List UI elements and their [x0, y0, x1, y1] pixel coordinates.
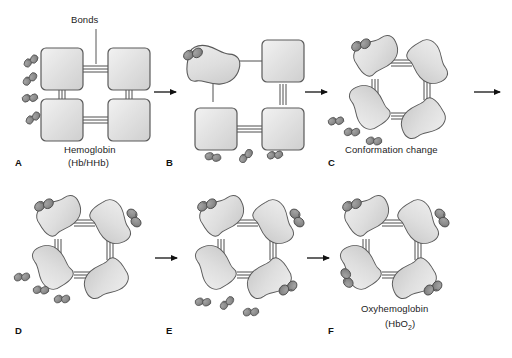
subunit-kidney: [87, 195, 138, 250]
panel-letter-c: C: [328, 157, 335, 168]
subunit-kidney: [349, 29, 404, 80]
free-oxygen-molecule: [343, 124, 361, 140]
free-oxygen-molecule: [194, 294, 212, 309]
subunit-kidney: [404, 35, 455, 90]
panel-letter-b: B: [166, 157, 173, 168]
panel-letter-e: E: [166, 325, 172, 336]
free-oxygen-molecule: [53, 291, 71, 307]
panel-d: [13, 189, 146, 307]
figure-canvas: [0, 0, 512, 358]
subunit-kidney: [195, 189, 250, 240]
subunit-kidney: [26, 239, 77, 294]
panel-a-caption-line2: (Hb/HHb): [68, 157, 109, 168]
hemoglobin-oxygen-loading-figure: Bonds Hemoglobin (Hb/HHb) Conformation c…: [0, 0, 512, 358]
subunit-kidney: [250, 195, 301, 250]
bonds-label: Bonds: [71, 14, 98, 25]
subunit-square: [108, 48, 150, 90]
panel-e: [189, 189, 309, 320]
free-oxygen-molecule: [21, 90, 39, 106]
free-oxygen-molecule: [242, 304, 260, 320]
panel-f: [334, 189, 454, 306]
subunit-kidney: [189, 239, 240, 294]
subunit-square: [262, 108, 304, 150]
subunit-square: [108, 99, 150, 141]
panel-f-caption-prefix: (HbO: [385, 318, 408, 329]
subunit-square: [41, 99, 83, 141]
panel-f-caption-line2: (HbO2): [385, 318, 415, 331]
subunit-square: [41, 48, 83, 90]
panel-letter-f: F: [328, 325, 334, 336]
panel-letter-d: D: [15, 325, 22, 336]
subunit-kidney: [395, 195, 446, 250]
free-oxygen-molecule: [219, 294, 235, 312]
panel-letter-a: A: [15, 157, 22, 168]
free-oxygen-molecule: [204, 150, 221, 164]
subunit-kidney: [340, 189, 395, 240]
subunit-kidney: [241, 255, 296, 306]
panel-c: [327, 29, 454, 149]
free-oxygen-molecule: [13, 269, 31, 285]
subunit-kidney: [343, 79, 394, 134]
free-oxygen-molecule: [23, 52, 40, 70]
subunit-square: [195, 108, 237, 150]
subunit-square: [262, 40, 304, 82]
panel-f-caption-line1: Oxyhemoglobin: [361, 303, 428, 314]
free-oxygen-group-a: [21, 52, 41, 127]
free-oxygen-molecule: [238, 147, 253, 165]
free-oxygen-molecule: [22, 70, 38, 88]
free-oxygen-molecule: [327, 113, 345, 129]
subunit-kidney: [386, 255, 441, 306]
subunit-kidney: [32, 189, 87, 240]
panel-a: [21, 29, 150, 141]
subunit-kidney: [334, 239, 385, 294]
subunit-kidney: [185, 43, 242, 87]
free-oxygen-molecule: [25, 109, 42, 127]
panel-f-caption-suffix: ): [412, 318, 415, 329]
free-oxygen-group-e: [194, 294, 260, 320]
subunit-kidney: [395, 95, 450, 146]
panel-a-caption-line1: Hemoglobin: [64, 144, 116, 155]
subunit-kidney: [78, 255, 133, 306]
panel-c-caption-line1: Conformation change: [345, 144, 438, 155]
panel-b: [182, 40, 304, 165]
